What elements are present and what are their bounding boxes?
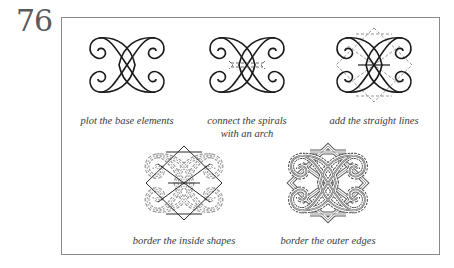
caption-plot-base-elements: plot the base elements xyxy=(67,114,187,127)
connect-spirals-diagram xyxy=(207,32,287,98)
caption-add-straight-lines: add the straight lines xyxy=(314,114,434,127)
page-number: 76 xyxy=(16,6,52,36)
caption-border-outer-edges: border the outer edges xyxy=(263,234,393,247)
base-elements-diagram xyxy=(87,32,167,98)
figure-connect-spirals xyxy=(207,32,287,98)
figure-plot-base-elements xyxy=(87,32,167,98)
caption-line-1: connect the spirals xyxy=(187,114,307,127)
caption-line-2: with an arch xyxy=(187,127,307,140)
straight-lines-diagram xyxy=(334,32,414,98)
caption-connect-spirals: connect the spirals with an arch xyxy=(187,114,307,140)
outer-edges-diagram xyxy=(288,150,368,216)
figure-border-outer-edges xyxy=(288,150,368,216)
caption-border-inside-shapes: border the inside shapes xyxy=(119,234,249,247)
inside-shapes-diagram xyxy=(144,150,224,216)
figure-border-inside-shapes xyxy=(144,150,224,216)
figure-add-straight-lines xyxy=(334,32,414,98)
